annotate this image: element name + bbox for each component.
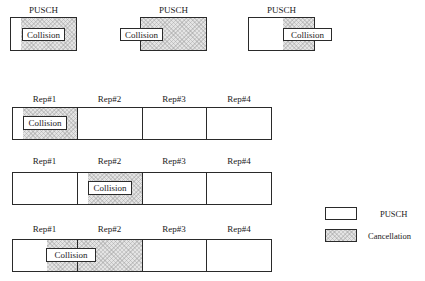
pusch-title: PUSCH	[10, 5, 77, 15]
collision-box: Collision	[283, 28, 332, 41]
rep-divider	[142, 239, 143, 272]
rep-label: Rep#2	[77, 94, 142, 104]
rep-divider	[206, 172, 207, 205]
rep-label: Rep#3	[142, 94, 206, 104]
rep-divider	[142, 172, 143, 205]
collision-box: Collision	[88, 181, 132, 195]
collision-box: Collision	[46, 248, 96, 262]
rep-divider	[142, 107, 143, 140]
collision-box: Collision	[22, 28, 65, 41]
legend-cancellation-label: Cancellation	[368, 231, 411, 241]
rep-divider	[206, 107, 207, 140]
pusch-title: PUSCH	[140, 5, 207, 15]
rep-label: Rep#4	[206, 94, 272, 104]
pusch-title: PUSCH	[248, 5, 315, 15]
rep-label: Rep#4	[206, 156, 272, 166]
rep-label: Rep#2	[77, 224, 142, 234]
rep-label: Rep#4	[206, 224, 272, 234]
rep-label: Rep#1	[12, 156, 77, 166]
collision-box: Collision	[120, 28, 163, 41]
rep-label: Rep#2	[77, 156, 142, 166]
rep-divider	[206, 239, 207, 272]
rep-label: Rep#3	[142, 156, 206, 166]
rep-label: Rep#1	[12, 94, 77, 104]
collision-box: Collision	[23, 116, 67, 130]
rep-label: Rep#3	[142, 224, 206, 234]
rep-divider	[77, 172, 78, 205]
legend-pusch-swatch	[325, 207, 357, 220]
rep-divider	[77, 107, 78, 140]
legend-pusch-label: PUSCH	[380, 209, 407, 219]
legend-cancellation-fill	[326, 230, 356, 241]
rep-label: Rep#1	[12, 224, 77, 234]
